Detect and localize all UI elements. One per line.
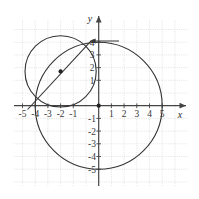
diameter-line (28, 41, 92, 110)
y-tick-label-2: 2 (90, 63, 95, 73)
origin-point (97, 104, 101, 108)
y-tick-label-4: 4 (90, 38, 95, 48)
x-tick-label--1: -1 (69, 109, 77, 119)
x-tick-label-4: 4 (147, 109, 152, 119)
x-tick-label-1: 1 (109, 109, 114, 119)
graph-figure: -5 -4 -3 -2 -1 1 2 3 4 5 4 3 2 1 -1 -2 -… (0, 0, 199, 199)
x-axis-arrow (180, 103, 187, 109)
y-axis-arrow (96, 16, 102, 23)
center-point (59, 69, 63, 73)
y-tick-label-1: 1 (90, 76, 95, 86)
x-tick-label-3: 3 (134, 109, 139, 119)
y-tick-label--3: -3 (88, 139, 96, 149)
x-tick-label-5: 5 (160, 109, 165, 119)
x-tick-label--5: -5 (19, 109, 27, 119)
x-tick-label--2: -2 (57, 109, 65, 119)
y-tick-label--2: -2 (88, 127, 96, 137)
x-axis-label: x (177, 109, 183, 120)
coordinate-plane-svg: -5 -4 -3 -2 -1 1 2 3 4 5 4 3 2 1 -1 -2 -… (0, 0, 199, 199)
x-tick-label-2: 2 (122, 109, 127, 119)
y-tick-label--1: -1 (88, 114, 96, 124)
x-tick-label--3: -3 (44, 109, 52, 119)
y-tick-label--5: -5 (88, 165, 96, 175)
y-tick-label--4: -4 (88, 152, 96, 162)
y-tick-label-3: 3 (90, 50, 95, 60)
x-tick-label--4: -4 (31, 109, 39, 119)
y-axis-label: y (87, 13, 93, 24)
